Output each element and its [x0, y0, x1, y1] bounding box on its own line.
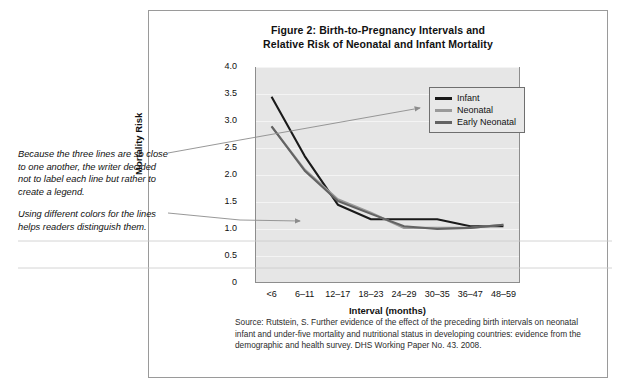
- figure-page: Figure 2: Birth-to-Pregnancy Intervals a…: [0, 0, 621, 388]
- annotation-leader-lines: [0, 0, 621, 388]
- leader-line-2: [168, 213, 300, 221]
- leader-line-1: [168, 108, 420, 153]
